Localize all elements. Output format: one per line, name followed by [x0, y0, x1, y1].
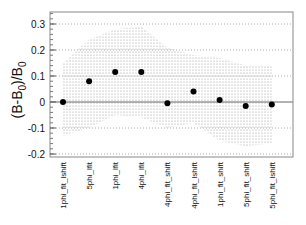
y-axis-label: (B-B0)/B0: [9, 61, 28, 118]
y-tick-label: -0.2: [28, 149, 46, 160]
data-point: [269, 102, 275, 108]
data-point: [60, 99, 66, 105]
y-tick-label: 0: [39, 97, 45, 108]
data-point: [112, 69, 118, 75]
y-tick-label: 0.3: [31, 19, 45, 30]
y-tick-label: 0.2: [31, 45, 45, 56]
x-tick-label: 5phi_fit_shift: [242, 161, 251, 207]
x-axis: 1phi_fit_lshift5phi_lfit1phi_lfit4phi_lf…: [59, 161, 277, 208]
y-tick-label: 0.1: [31, 71, 45, 82]
y-axis: -0.2-0.100.10.20.3: [28, 14, 56, 160]
data-point: [86, 78, 92, 84]
x-tick-label: 4phi_fit_shift: [163, 161, 172, 207]
data-point: [191, 89, 197, 95]
x-tick-label: 5phi_fit_lshift: [268, 161, 277, 208]
data-point: [138, 69, 144, 75]
x-tick-label: 4phi_fit_lshift: [190, 161, 199, 208]
x-tick-label: 5phi_lfit: [85, 161, 94, 189]
data-point: [243, 103, 249, 109]
x-tick-label: 4phi_lfit: [137, 161, 146, 189]
x-tick-label: 1phi_fit_lshift: [59, 161, 68, 208]
x-tick-label: 1phi_fit_shift: [216, 161, 225, 207]
data-point: [164, 100, 170, 106]
y-tick-label: -0.1: [28, 123, 46, 134]
data-point: [217, 97, 223, 103]
x-tick-label: 1phi_lfit: [111, 161, 120, 189]
chart: -0.2-0.100.10.20.3 1phi_fit_lshift5phi_l…: [0, 0, 306, 225]
